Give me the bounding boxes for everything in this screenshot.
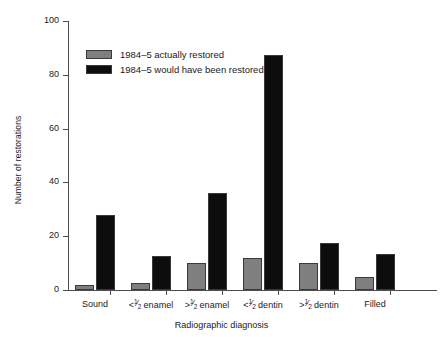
- bar-actually-restored-4: [299, 263, 318, 290]
- y-tick-100: 100: [63, 21, 68, 22]
- bar-actually-restored-2: [187, 263, 206, 290]
- bar-actually-restored-3: [243, 258, 262, 290]
- fraction-one-half-2: 1⁄2: [190, 298, 197, 309]
- fraction-denominator-2: 2: [194, 301, 198, 313]
- x-category-post-1: enamel: [141, 300, 173, 310]
- y-tick-20: 20: [63, 236, 68, 237]
- fraction-one-half-4: 1⁄2: [305, 298, 312, 309]
- bar-chart-figure: Number of restorations 0 20 40 60 80 100: [0, 0, 443, 349]
- x-category-label-4: >1⁄2 dentin: [299, 298, 338, 311]
- y-tick-label-0: 0: [19, 284, 59, 295]
- y-tick-label-60: 60: [19, 123, 59, 134]
- bar-actually-restored-0: [75, 285, 94, 290]
- bar-would-have-been-restored-3: [264, 55, 283, 290]
- x-tick-1: [110, 290, 111, 295]
- x-category-post-4: dentin: [312, 300, 339, 310]
- y-tick-label-80: 80: [19, 69, 59, 80]
- bar-would-have-been-restored-0: [96, 215, 115, 290]
- bar-actually-restored-1: [131, 283, 150, 290]
- x-tick-3: [222, 290, 223, 295]
- x-category-label-3: <1⁄2 dentin: [243, 298, 282, 311]
- y-tick-40: 40: [63, 182, 68, 183]
- fraction-denominator-4: 2: [308, 301, 312, 313]
- bar-actually-restored-5: [355, 277, 374, 290]
- bar-would-have-been-restored-1: [152, 256, 171, 290]
- bar-would-have-been-restored-5: [376, 254, 395, 290]
- x-category-label-1: <1⁄2 enamel: [129, 298, 173, 311]
- x-category-label-0: Sound: [82, 298, 108, 310]
- fraction-denominator-1: 2: [138, 301, 142, 313]
- legend-swatch-would-have-been-restored: [86, 65, 112, 74]
- y-tick-label-20: 20: [19, 230, 59, 241]
- y-tick-label-100: 100: [19, 15, 59, 26]
- x-tick-5: [334, 290, 335, 295]
- fraction-one-half-3: 1⁄2: [249, 298, 256, 309]
- x-tick-4: [278, 290, 279, 295]
- legend-swatch-actually-restored: [86, 50, 112, 59]
- y-tick-60: 60: [63, 129, 68, 130]
- x-category-text-0: Sound: [82, 299, 108, 309]
- fraction-denominator-3: 2: [252, 301, 256, 313]
- chart-legend: 1984–5 actually restored 1984–5 would ha…: [86, 47, 264, 77]
- legend-label-would-have-been-restored: 1984–5 would have been restored: [120, 64, 264, 76]
- x-axis-line: [68, 290, 437, 291]
- x-axis-title: Radiographic diagnosis: [0, 320, 443, 330]
- x-category-text-5: Filled: [364, 299, 386, 309]
- y-tick-0: 0: [63, 290, 68, 291]
- legend-item-1: 1984–5 would have been restored: [86, 62, 264, 77]
- x-tick-6: [390, 290, 391, 295]
- x-category-label-2: >1⁄2 enamel: [185, 298, 229, 311]
- x-tick-2: [166, 290, 167, 295]
- x-category-post-3: dentin: [256, 300, 283, 310]
- legend-label-actually-restored: 1984–5 actually restored: [120, 49, 224, 61]
- fraction-one-half-1: 1⁄2: [134, 298, 141, 309]
- legend-item-0: 1984–5 actually restored: [86, 47, 264, 62]
- y-tick-80: 80: [63, 75, 68, 76]
- x-category-label-5: Filled: [364, 298, 386, 310]
- x-category-post-2: enamel: [197, 300, 229, 310]
- y-tick-label-40: 40: [19, 176, 59, 187]
- bar-would-have-been-restored-4: [320, 243, 339, 290]
- bar-would-have-been-restored-2: [208, 193, 227, 290]
